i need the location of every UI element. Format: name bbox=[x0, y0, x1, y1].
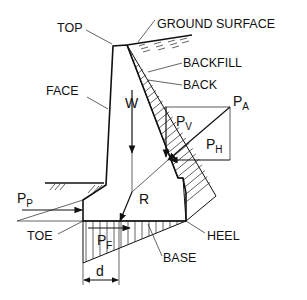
symbol-friction: PF bbox=[97, 232, 112, 251]
label-back: BACK bbox=[183, 78, 218, 92]
symbol-eccentricity: d bbox=[96, 263, 104, 279]
wall-outline bbox=[83, 45, 186, 221]
label-ground-surface: GROUND SURFACE bbox=[157, 17, 275, 31]
hatch-line bbox=[120, 110, 230, 200]
symbol-vertical-component: PV bbox=[176, 113, 192, 132]
label-backfill: BACKFILL bbox=[183, 56, 242, 70]
hatch-line bbox=[120, 150, 230, 240]
label-face: FACE bbox=[46, 84, 79, 98]
hatch-line bbox=[120, 142, 230, 232]
hatch-line bbox=[120, 0, 230, 8]
symbol-weight: W bbox=[125, 95, 139, 111]
symbol-passive-pressure: PP bbox=[17, 190, 33, 209]
label-toe: TOE bbox=[27, 229, 52, 243]
hatch-line bbox=[120, 118, 230, 208]
symbol-active-pressure: PA bbox=[233, 93, 249, 112]
symbol-horizontal-component: PH bbox=[206, 136, 223, 155]
retaining-wall-diagram: TOP GROUND SURFACE BACKFILL BACK FACE TO… bbox=[0, 0, 307, 300]
hatch-line bbox=[120, 0, 230, 16]
label-heel: HEEL bbox=[207, 229, 240, 243]
resultant-arrow bbox=[120, 192, 132, 221]
resultant-line-extension bbox=[132, 160, 168, 192]
hatch-line bbox=[120, 0, 230, 64]
symbol-resultant: R bbox=[139, 191, 149, 207]
ground-surface-hatch bbox=[127, 35, 192, 52]
label-top: TOP bbox=[57, 21, 82, 35]
label-base: BASE bbox=[163, 251, 196, 265]
